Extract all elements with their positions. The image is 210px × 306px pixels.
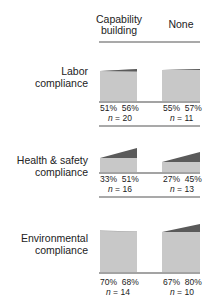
before-pct: 51%: [100, 103, 117, 113]
after-pct: 80%: [185, 277, 202, 287]
n-label: n: [108, 113, 113, 123]
env-baseline: [99, 272, 200, 274]
labor-capability-pct: 51% 56%: [100, 104, 139, 113]
labor-none-n: n = 11: [170, 114, 193, 123]
increase-wedge: [162, 152, 200, 162]
row-label-environmental: Environmental compliance: [0, 232, 88, 256]
after-pct: 51%: [122, 174, 139, 184]
after-pct: 56%: [122, 103, 139, 113]
row-label-line: Labor: [0, 65, 88, 77]
after-pct: 68%: [122, 277, 139, 287]
row-label-labor: Labor compliance: [0, 65, 88, 89]
env-capability-plot: [100, 230, 137, 273]
n-label: n: [170, 184, 175, 194]
env-capability-n: n = 14: [106, 288, 130, 297]
increase-wedge: [100, 69, 137, 71]
row-label-line: Health & safety: [0, 154, 88, 166]
env-none-pct: 67% 80%: [163, 278, 202, 287]
header-line: None: [160, 19, 202, 30]
before-area: [162, 232, 200, 273]
before-area: [162, 69, 200, 102]
column-header-capability-building: Capability building: [96, 14, 142, 36]
n-value: = 10: [177, 287, 194, 297]
n-label: n: [170, 113, 175, 123]
increase-wedge: [162, 69, 200, 70]
increase-wedge: [162, 224, 200, 232]
header-divider: [99, 41, 200, 43]
labor-capability-plot: [100, 60, 137, 102]
n-label: n: [170, 287, 175, 297]
env-none-n: n = 10: [170, 288, 194, 297]
before-area: [100, 231, 137, 273]
health-none-pct: 27% 45%: [163, 175, 202, 184]
n-value: = 16: [115, 184, 132, 194]
env-none-plot: [162, 224, 200, 273]
n-value: = 20: [115, 113, 132, 123]
n-value: = 13: [177, 184, 194, 194]
health-capability-n: n = 16: [108, 185, 132, 194]
before-pct: 70%: [100, 277, 117, 287]
labor-none-pct: 55% 57%: [163, 104, 202, 113]
before-pct: 67%: [163, 277, 180, 287]
n-label: n: [106, 287, 111, 297]
after-pct: 45%: [185, 174, 202, 184]
n-value: = 11: [177, 113, 193, 123]
header-line: building: [96, 25, 142, 36]
row-label-line: compliance: [0, 77, 88, 89]
labor-capability-n: n = 20: [108, 114, 132, 123]
health-capability-pct: 33% 51%: [100, 175, 139, 184]
before-area: [100, 158, 137, 173]
increase-wedge: [100, 148, 137, 158]
row-label-line: compliance: [0, 166, 88, 178]
labor-divider: [99, 125, 200, 127]
row-label-line: compliance: [0, 244, 88, 256]
after-pct: 57%: [185, 103, 202, 113]
before-pct: 33%: [100, 174, 117, 184]
before-area: [100, 69, 137, 102]
labor-none-plot: [162, 60, 200, 102]
health-capability-plot: [100, 158, 137, 173]
health-divider: [99, 196, 200, 198]
row-label-line: Environmental: [0, 232, 88, 244]
before-pct: 27%: [163, 174, 180, 184]
before-pct: 55%: [163, 103, 180, 113]
n-label: n: [108, 184, 113, 194]
row-label-health-safety: Health & safety compliance: [0, 154, 88, 178]
n-value: = 14: [113, 287, 130, 297]
env-capability-pct: 70% 68%: [100, 278, 139, 287]
column-header-none: None: [160, 19, 202, 30]
health-none-n: n = 13: [170, 185, 194, 194]
